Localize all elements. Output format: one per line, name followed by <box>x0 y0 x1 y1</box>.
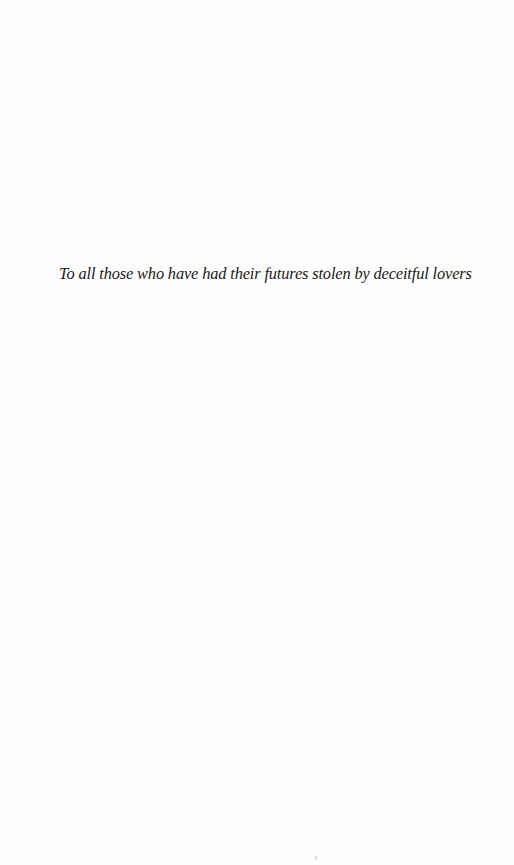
book-page: To all those who have had their futures … <box>0 0 514 865</box>
scan-artifact <box>314 856 317 860</box>
dedication-text: To all those who have had their futures … <box>59 264 472 284</box>
